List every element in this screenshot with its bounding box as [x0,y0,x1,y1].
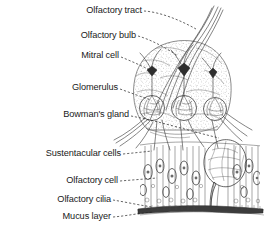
label-text-olfactory-tract: Olfactory tract [86,5,142,15]
label-text-olfactory-bulb: Olfactory bulb [81,30,136,40]
label-text-olfactory-cilia: Olfactory cilia [57,194,112,204]
label-text-olfactory-cell: Olfactory cell [66,175,118,185]
label-text-mitral-cell: Mitral cell [81,50,119,60]
label-text-sustentacular-cells: Sustentacular cells [46,148,122,158]
label-text-mucus-layer: Mucus layer [63,211,111,221]
label-text-bowmans-gland: Bowman's gland [63,109,129,119]
label-text-glomerulus: Glomerulus [72,82,118,92]
olfactory-system-figure: Olfactory tract Olfactory bulb Mitral ce… [0,0,265,234]
